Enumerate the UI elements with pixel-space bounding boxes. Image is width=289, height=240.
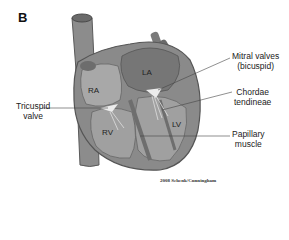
- label-mitral-line2: (bicuspid): [232, 62, 279, 72]
- label-tricuspid-valve: Tricuspid valve: [16, 102, 50, 121]
- label-chordae-tendineae: Chordae tendineae: [234, 88, 271, 107]
- label-mitral-valves: Mitral valves (bicuspid): [232, 52, 279, 71]
- chamber-label-ra: RA: [88, 86, 99, 95]
- chamber-label-lv: LV: [172, 120, 181, 129]
- label-tricuspid-line2: valve: [16, 112, 50, 122]
- label-chordae-line2: tendineae: [234, 98, 271, 108]
- chamber-label-la: LA: [142, 68, 152, 77]
- label-papillary-muscle: Papillary muscle: [232, 130, 265, 149]
- image-credit: 2008 Schenk/Cunningham: [160, 178, 216, 183]
- label-papillary-line2: muscle: [232, 140, 265, 150]
- chamber-label-rv: RV: [102, 128, 113, 137]
